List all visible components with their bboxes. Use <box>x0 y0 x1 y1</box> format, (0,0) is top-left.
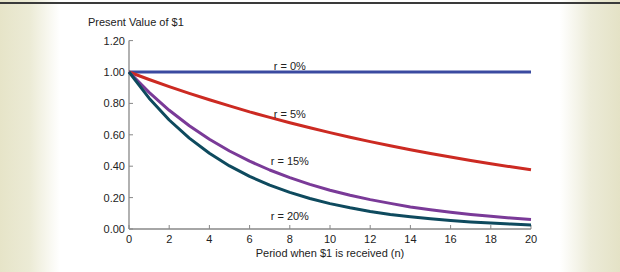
x-tick-label: 6 <box>247 233 253 245</box>
series-label: r = 5% <box>274 108 306 120</box>
x-tick-label: 14 <box>404 233 416 245</box>
x-tick-label: 20 <box>525 233 537 245</box>
y-tick-label: 0.20 <box>104 192 125 204</box>
y-tick-label: 0.00 <box>104 223 125 235</box>
y-tick-label: 1.00 <box>104 66 125 78</box>
x-tick-label: 10 <box>324 233 336 245</box>
y-tick-label: 1.20 <box>104 35 125 47</box>
y-tick-label: 0.40 <box>104 160 125 172</box>
present-value-chart: 0.000.200.400.600.801.001.20024681012141… <box>0 0 620 272</box>
y-axis-label: Present Value of $1 <box>88 16 184 28</box>
series-line <box>129 72 531 170</box>
y-tick-label: 0.80 <box>104 97 125 109</box>
y-tick-label: 0.60 <box>104 129 125 141</box>
series-label: r = 15% <box>271 155 309 167</box>
series-label: r = 20% <box>271 210 309 222</box>
x-tick-label: 2 <box>166 233 172 245</box>
x-axis-label: Period when $1 is received (n) <box>256 247 405 259</box>
x-tick-label: 18 <box>485 233 497 245</box>
x-tick-label: 12 <box>364 233 376 245</box>
series-label: r = 0% <box>274 60 306 72</box>
x-tick-label: 8 <box>287 233 293 245</box>
series-lines <box>129 72 531 225</box>
x-tick-label: 16 <box>444 233 456 245</box>
x-tick-label: 4 <box>206 233 212 245</box>
x-tick-label: 0 <box>126 233 132 245</box>
